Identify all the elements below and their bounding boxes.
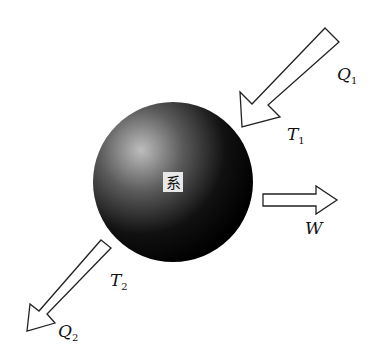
heat-in-arrow: [240, 28, 339, 127]
heat-out-label: Q2: [58, 321, 78, 343]
heat-in-label: Q1: [337, 64, 357, 86]
work-out-arrow: [263, 186, 337, 214]
system-label: 系: [166, 174, 181, 192]
cold-temp-label: T2: [110, 270, 128, 292]
heat-out-arrow: [27, 240, 111, 331]
work-label: W: [305, 218, 324, 238]
heat-engine-diagram: 系 Q1 T1 W T2 Q2: [0, 0, 384, 359]
hot-temp-label: T1: [287, 124, 305, 146]
